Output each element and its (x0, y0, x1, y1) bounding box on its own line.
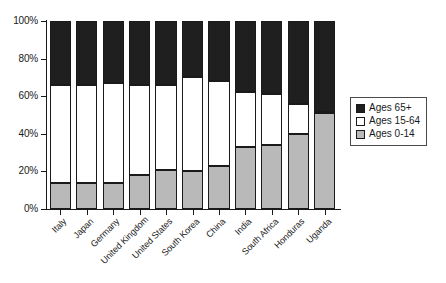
x-axis-tick (219, 210, 220, 215)
x-axis-tick (140, 210, 141, 215)
bar-segment-ages-65-plus (155, 21, 176, 85)
bar-stack (208, 21, 229, 209)
bar-segment-ages-65-plus (288, 21, 309, 104)
bar-stack (76, 21, 97, 209)
bar-segment-ages-0-14 (50, 183, 71, 209)
legend-item-ages-65-plus: Ages 65+ (356, 102, 420, 114)
bar-segment-ages-15-64 (288, 104, 309, 134)
bar-segment-ages-65-plus (50, 21, 71, 85)
y-axis-tick (41, 134, 46, 135)
bar-stack (261, 21, 282, 209)
bar-stack (314, 21, 335, 209)
y-axis-tick-label: 80% (0, 54, 38, 64)
bar-segment-ages-65-plus (208, 21, 229, 81)
bar-stack (235, 21, 256, 209)
bar-stack (129, 21, 150, 209)
bar-segment-ages-0-14 (288, 134, 309, 209)
x-axis-tick (60, 210, 61, 215)
plot-area (47, 21, 338, 209)
x-axis-tick (87, 210, 88, 215)
bar-segment-ages-0-14 (314, 113, 335, 209)
bar-segment-ages-15-64 (50, 85, 71, 183)
bar-segment-ages-15-64 (261, 94, 282, 145)
bar-segment-ages-15-64 (129, 85, 150, 175)
legend-item-ages-15-64: Ages 15-64 (356, 115, 420, 127)
x-axis-tick (325, 210, 326, 215)
bar-segment-ages-15-64 (103, 83, 124, 183)
bar-segment-ages-15-64 (182, 77, 203, 171)
chart-legend: Ages 65+ Ages 15-64 Ages 0-14 (350, 97, 427, 146)
y-axis-tick-label: 0% (0, 204, 38, 214)
bar-segment-ages-15-64 (208, 81, 229, 166)
y-axis-tick (41, 209, 46, 210)
y-axis-tick-label: 20% (0, 166, 38, 176)
bar-segment-ages-65-plus (129, 21, 150, 85)
bar-segment-ages-0-14 (76, 183, 97, 209)
legend-swatch-icon-old (356, 104, 365, 113)
bar-stack (50, 21, 71, 209)
bar-segment-ages-65-plus (235, 21, 256, 92)
x-axis-tick (298, 210, 299, 215)
y-axis-tick (41, 21, 46, 22)
legend-label: Ages 0-14 (369, 129, 415, 139)
y-axis-tick (41, 59, 46, 60)
bar-segment-ages-15-64 (155, 85, 176, 170)
x-axis-tick (113, 210, 114, 215)
bar-segment-ages-15-64 (76, 85, 97, 183)
bar-segment-ages-65-plus (182, 21, 203, 77)
y-axis-tick-label: 60% (0, 91, 38, 101)
y-axis-tick-label: 40% (0, 129, 38, 139)
bar-segment-ages-0-14 (103, 183, 124, 209)
bar-segment-ages-65-plus (76, 21, 97, 85)
bar-segment-ages-0-14 (182, 171, 203, 209)
bar-segment-ages-0-14 (235, 147, 256, 209)
bar-segment-ages-0-14 (129, 175, 150, 209)
legend-item-ages-0-14: Ages 0-14 (356, 128, 420, 140)
bar-segment-ages-0-14 (261, 145, 282, 209)
legend-label: Ages 65+ (369, 103, 412, 113)
bar-stack (155, 21, 176, 209)
y-axis-tick-label: 100% (0, 16, 38, 26)
bar-segment-ages-65-plus (103, 21, 124, 83)
bar-segment-ages-65-plus (261, 21, 282, 94)
legend-label: Ages 15-64 (369, 116, 420, 126)
x-axis-tick (245, 210, 246, 215)
bar-stack (288, 21, 309, 209)
population-age-distribution-chart: 0%20%40%60%80%100% ItalyJapanGermanyUnit… (0, 0, 446, 283)
x-axis-tick (272, 210, 273, 215)
bar-stack (103, 21, 124, 209)
bar-segment-ages-0-14 (208, 166, 229, 209)
y-axis-tick (41, 96, 46, 97)
bar-segment-ages-0-14 (155, 170, 176, 209)
bar-segment-ages-65-plus (314, 21, 335, 121)
y-axis-tick (41, 171, 46, 172)
x-axis-tick-label: Italy (20, 217, 69, 266)
x-axis-tick (166, 210, 167, 215)
x-axis-tick (193, 210, 194, 215)
bar-stack (182, 21, 203, 209)
bar-segment-ages-15-64 (235, 92, 256, 147)
legend-swatch-icon-middle (356, 117, 365, 126)
legend-swatch-icon-young (356, 130, 365, 139)
